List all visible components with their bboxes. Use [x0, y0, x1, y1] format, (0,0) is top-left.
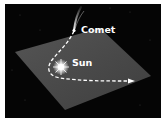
comet-head — [72, 29, 75, 32]
diagram-frame: Comet Sun — [5, 4, 161, 118]
comet-label: Comet — [81, 24, 116, 35]
comet-orbit-diagram: Comet Sun — [5, 4, 161, 118]
orbital-plane — [15, 28, 151, 110]
sun-label: Sun — [72, 57, 93, 68]
comet-tail — [74, 7, 81, 30]
sun-icon — [53, 59, 69, 75]
